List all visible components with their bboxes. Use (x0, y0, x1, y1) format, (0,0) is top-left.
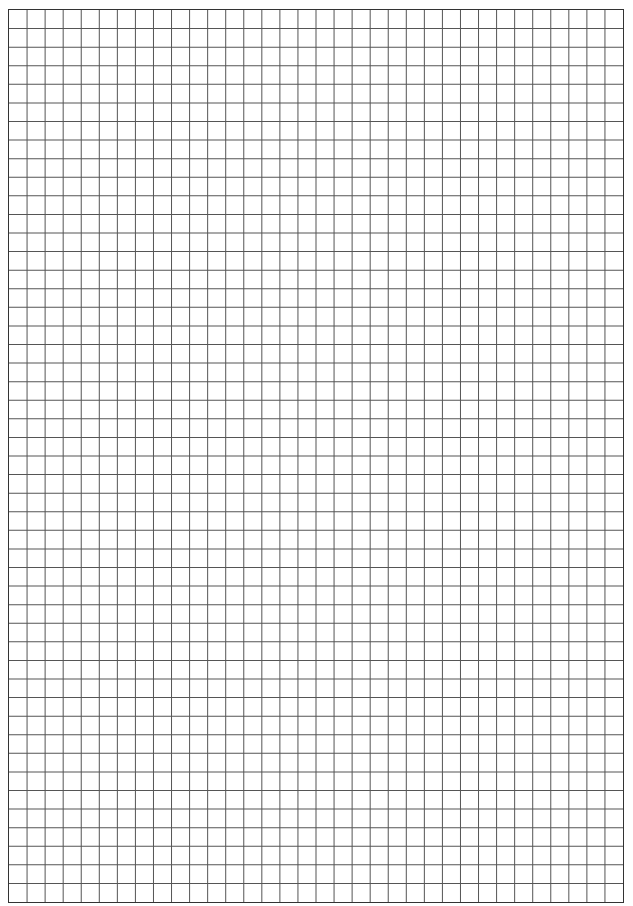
grid-lines (9, 10, 623, 902)
grid-paper-sheet (8, 9, 624, 903)
